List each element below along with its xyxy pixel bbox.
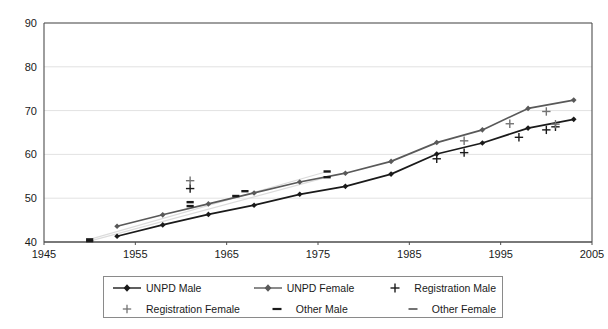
x-tick-1945: 1945 xyxy=(32,248,56,260)
y-tick-80: 80 xyxy=(25,61,37,73)
legend-label-other-male: Other Male xyxy=(294,303,348,315)
chart-container: 405060708090 194519551965197519851995200… xyxy=(0,0,608,329)
legend-item-registration-female: Registration Female xyxy=(110,303,260,315)
x-tick-1985: 1985 xyxy=(397,248,421,260)
dash-marker-icon xyxy=(396,303,430,315)
line-diamond-icon xyxy=(110,282,144,294)
legend-row-1: UNPD Male UNPD Female Re xyxy=(104,277,502,298)
legend-label-registration-female: Registration Female xyxy=(144,303,240,315)
plus-marker-icon xyxy=(110,303,144,315)
y-tick-70: 70 xyxy=(25,105,37,117)
legend-label-unpd-female: UNPD Female xyxy=(285,282,355,294)
legend-item-other-female: Other Female xyxy=(396,303,496,315)
line-diamond-icon xyxy=(251,282,285,294)
x-tick-1995: 1995 xyxy=(488,248,512,260)
x-tick-1975: 1975 xyxy=(306,248,330,260)
dash-marker-icon xyxy=(260,303,294,315)
x-axis-tick-labels: 1945195519651975198519952005 xyxy=(32,242,604,260)
plot-background xyxy=(44,23,592,242)
plus-marker-icon xyxy=(378,282,412,294)
y-tick-40: 40 xyxy=(25,236,37,248)
x-tick-1965: 1965 xyxy=(214,248,238,260)
legend-label-other-female: Other Female xyxy=(430,303,496,315)
legend-item-registration-male: Registration Male xyxy=(378,282,496,294)
legend-row-2: Registration Female Other Male Other Fem… xyxy=(104,298,502,319)
x-tick-2005: 2005 xyxy=(580,248,604,260)
y-tick-50: 50 xyxy=(25,192,37,204)
x-tick-1955: 1955 xyxy=(123,248,147,260)
legend-item-unpd-male: UNPD Male xyxy=(110,282,251,294)
legend-label-unpd-male: UNPD Male xyxy=(144,282,201,294)
y-tick-60: 60 xyxy=(25,148,37,160)
y-tick-90: 90 xyxy=(25,17,37,29)
chart-legend: UNPD Male UNPD Female Re xyxy=(103,276,503,318)
y-axis-tick-labels: 405060708090 xyxy=(25,17,37,248)
legend-item-unpd-female: UNPD Female xyxy=(251,282,379,294)
legend-item-other-male: Other Male xyxy=(260,303,396,315)
legend-label-registration-male: Registration Male xyxy=(412,282,496,294)
